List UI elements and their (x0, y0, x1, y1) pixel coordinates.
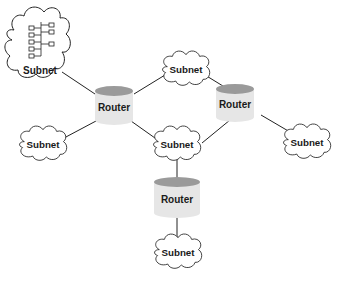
router-left: Router (95, 86, 133, 125)
edge-router-left-subnet-topmid (134, 75, 165, 94)
network-diagram: Subnet Router Subnet Router Subnet Subne… (0, 0, 339, 286)
subnet-label: Subnet (161, 247, 195, 258)
subnet-topleft: Subnet (5, 7, 70, 77)
subnet-center: Subnet (154, 126, 201, 160)
router-right: Router (216, 84, 254, 122)
edge-subnet-center-router-right (202, 120, 230, 143)
router-label: Router (219, 99, 251, 110)
subnet-bottom: Subnet (155, 234, 202, 268)
router-label: Router (161, 194, 193, 205)
edge-subnet-topleft-router-left (62, 72, 98, 96)
subnet-label: Subnet (290, 137, 324, 148)
subnet-right: Subnet (284, 124, 331, 158)
edge-router-right-subnet-right (261, 115, 290, 132)
router-label: Router (98, 102, 130, 113)
edge-router-left-subnet-left (64, 121, 96, 138)
subnet-label: Subnet (26, 139, 60, 150)
subnet-topmid: Subnet (163, 51, 210, 85)
subnet-left: Subnet (20, 126, 67, 160)
subnet-label: Subnet (23, 65, 58, 76)
subnet-label: Subnet (169, 64, 203, 75)
router-bottom: Router (154, 177, 200, 218)
subnet-label: Subnet (160, 139, 194, 150)
